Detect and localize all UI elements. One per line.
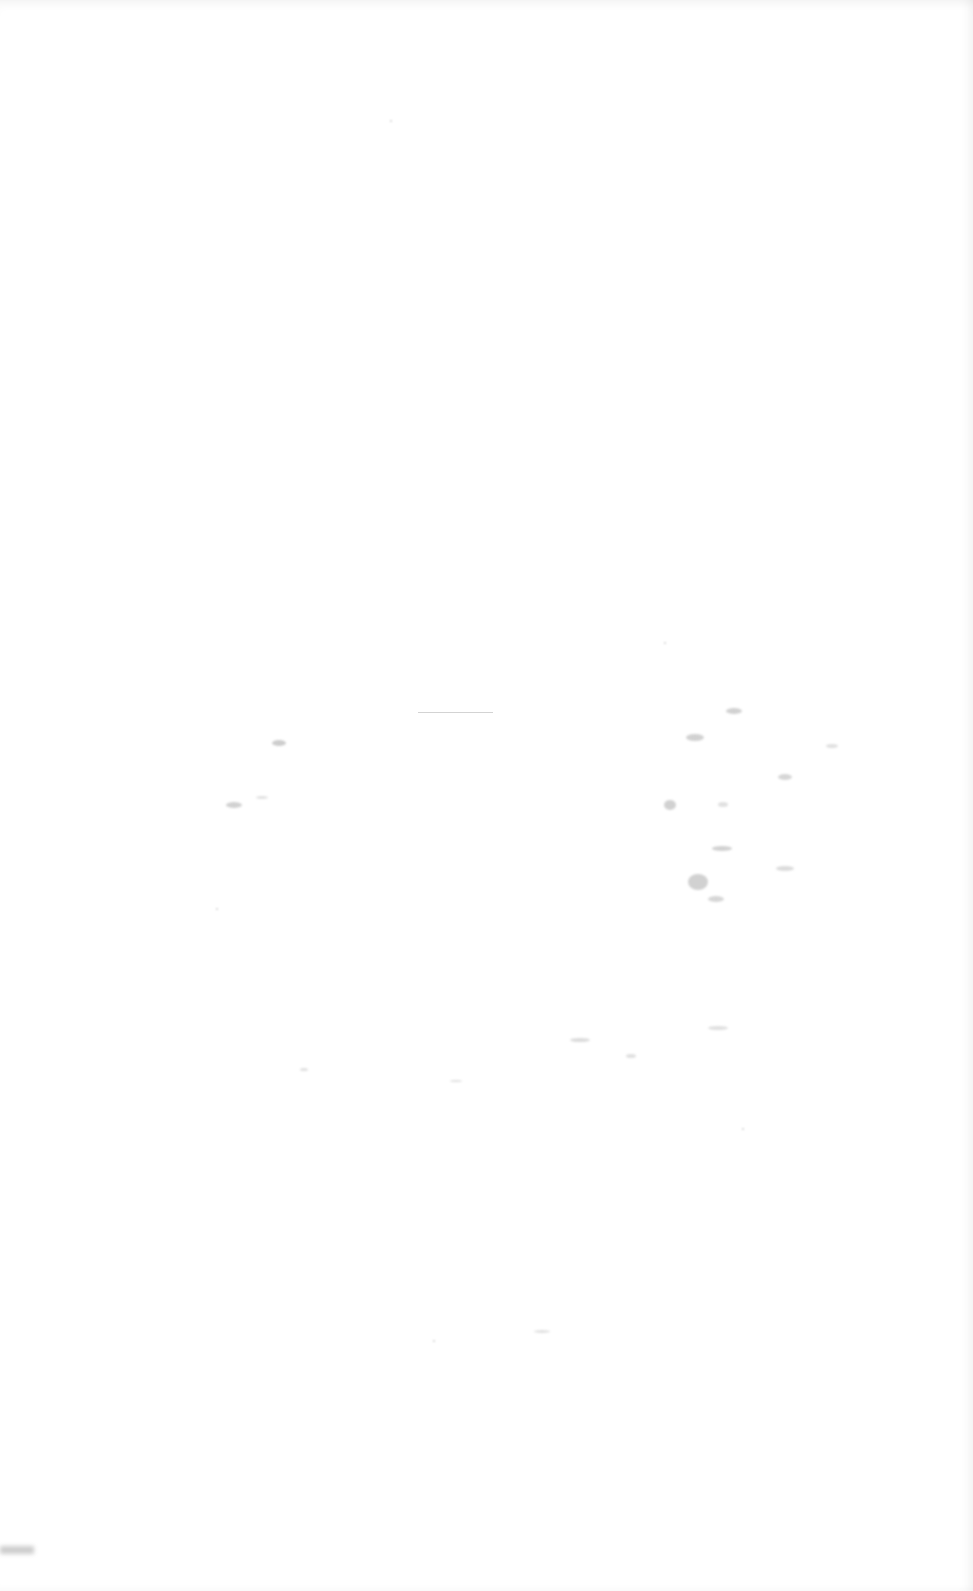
noise-speck — [626, 1054, 636, 1058]
noise-speck — [742, 1128, 744, 1130]
noise-speck — [534, 1330, 550, 1333]
noise-speck — [726, 708, 742, 714]
noise-speck — [664, 800, 676, 810]
noise-speck — [718, 802, 728, 807]
blank-page — [0, 0, 973, 1591]
noise-speck — [712, 846, 732, 851]
noise-speck — [708, 1026, 728, 1030]
noise-speck — [826, 744, 838, 748]
noise-speck — [390, 120, 392, 122]
noise-speck — [776, 866, 794, 871]
noise-speck — [688, 874, 708, 890]
noise-speck — [226, 802, 242, 808]
noise-speck — [570, 1038, 590, 1042]
noise-speck — [708, 896, 724, 902]
noise-speck — [686, 734, 704, 741]
noise-speck — [216, 908, 218, 910]
noise-speck — [433, 1340, 435, 1342]
edge-smudge — [0, 1546, 34, 1554]
noise-speck — [272, 740, 286, 746]
noise-speck — [256, 796, 268, 799]
faint-horizontal-line — [418, 712, 493, 713]
noise-speck — [300, 1068, 308, 1071]
noise-speck — [778, 774, 792, 780]
noise-speck — [664, 642, 666, 644]
noise-speck — [450, 1080, 462, 1082]
